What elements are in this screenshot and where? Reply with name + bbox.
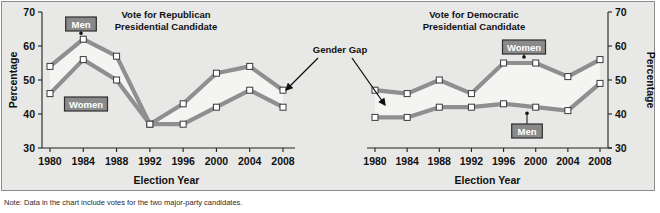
chart-title-line1: Vote for Republican (121, 9, 210, 20)
data-point-men (533, 104, 539, 110)
x-tick-label: 2004 (556, 155, 580, 167)
data-point-men (280, 87, 286, 93)
x-tick-label: 2004 (238, 155, 262, 167)
data-point-women (80, 57, 86, 63)
callout-dot (522, 55, 526, 59)
x-axis-title: Election Year (134, 174, 200, 186)
x-tick-label: 1984 (72, 155, 96, 167)
x-tick-label: 2008 (588, 155, 612, 167)
chart-title-line1: Vote for Democratic (429, 9, 519, 20)
callout-men-republican: Men (66, 17, 97, 35)
data-point-men (80, 36, 86, 42)
x-tick-label: 1992 (138, 155, 162, 167)
data-point-men (180, 101, 186, 107)
data-point-men (468, 104, 474, 110)
callout-women-republican: Women (65, 97, 108, 111)
y-tick-label: 50 (23, 74, 35, 86)
x-tick-label: 1988 (105, 155, 129, 167)
data-point-women (404, 91, 410, 97)
callout-label: Women (69, 99, 103, 110)
x-tick-label: 1984 (395, 155, 419, 167)
data-point-women (280, 104, 286, 110)
x-tick-label: 1980 (363, 155, 387, 167)
x-tick-label: 2000 (524, 155, 548, 167)
figure-note: Note: Data in the chart include votes fo… (4, 196, 644, 209)
x-tick-label: 1988 (428, 155, 452, 167)
x-axis-title: Election Year (455, 174, 521, 186)
gender-gap-arrow-left (286, 58, 318, 90)
chart-panel-republican: 3040506070198019841988199219962000200420… (7, 6, 295, 186)
data-point-men (114, 53, 120, 59)
x-tick-label: 2008 (271, 155, 295, 167)
chart-title-line2: Presidential Candidate (423, 21, 525, 32)
data-point-men (372, 114, 378, 120)
callout-label: Men (518, 126, 537, 137)
data-point-men (597, 80, 603, 86)
data-point-women (114, 77, 120, 83)
y-tick-label: 60 (615, 40, 627, 52)
x-tick-label: 1980 (38, 155, 62, 167)
data-point-women (468, 91, 474, 97)
data-point-women (247, 87, 253, 93)
callout-label: Women (507, 42, 541, 53)
y-tick-label: 30 (23, 142, 35, 154)
data-point-men (404, 114, 410, 120)
callout-men-democratic: Men (512, 111, 543, 138)
data-point-men (565, 108, 571, 114)
data-point-women (597, 57, 603, 63)
y-axis-title: Percentage (645, 52, 657, 109)
chart-panel-democratic: 3040506070198019841988199219962000200420… (363, 6, 657, 186)
y-tick-label: 60 (23, 40, 35, 52)
gender-gap-arrow-right (352, 58, 385, 105)
y-tick-label: 70 (23, 6, 35, 18)
data-point-women (47, 91, 53, 97)
data-point-men (436, 104, 442, 110)
data-point-women (436, 77, 442, 83)
callout-label: Men (72, 19, 91, 30)
data-point-women (565, 74, 571, 80)
gender-gap-label: Gender Gap (313, 44, 368, 55)
x-tick-label: 1992 (460, 155, 484, 167)
y-tick-label: 70 (615, 6, 627, 18)
callout-women-democratic: Women (503, 40, 546, 59)
data-point-women (180, 121, 186, 127)
data-point-men (501, 101, 507, 107)
x-tick-label: 1996 (171, 155, 195, 167)
y-tick-label: 40 (23, 108, 35, 120)
x-tick-label: 1996 (492, 155, 516, 167)
chart-title-line2: Presidential Candidate (115, 21, 217, 32)
x-tick-label: 2000 (205, 155, 229, 167)
y-axis-title: Percentage (7, 52, 19, 109)
figure-root: 3040506070198019841988199219962000200420… (0, 0, 660, 213)
data-point-men (247, 63, 253, 69)
y-tick-label: 50 (615, 74, 627, 86)
y-tick-label: 40 (615, 108, 627, 120)
data-point-men (213, 70, 219, 76)
callout-dot (525, 111, 529, 115)
callout-dot (79, 31, 83, 35)
data-point-women (533, 60, 539, 66)
y-tick-label: 30 (615, 142, 627, 154)
data-point-women (501, 60, 507, 66)
annotation-gender-gap: Gender Gap (286, 44, 385, 105)
charts-svg: 3040506070198019841988199219962000200420… (0, 0, 660, 213)
data-point-men (47, 63, 53, 69)
data-point-women (147, 121, 153, 127)
data-point-women (213, 104, 219, 110)
